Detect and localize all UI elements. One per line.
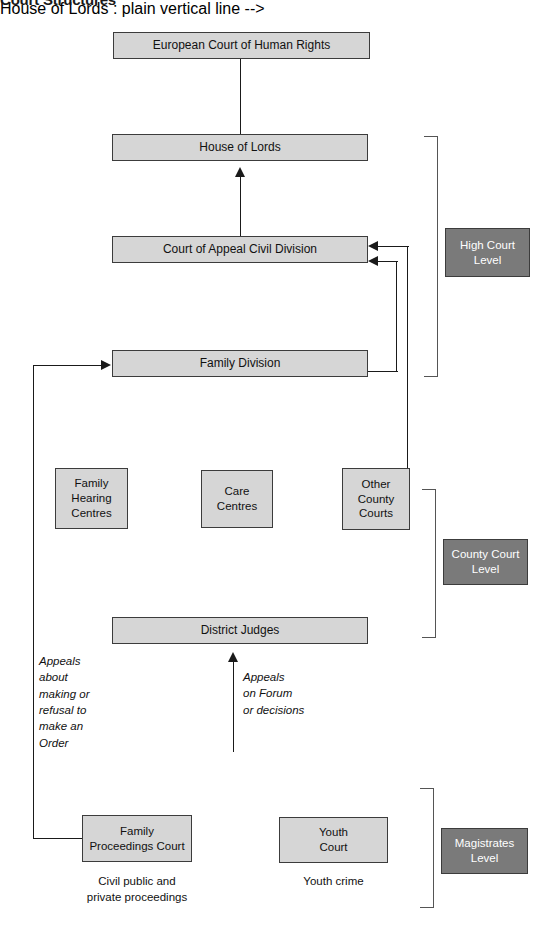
badge-county-court-level[interactable]: County Court Level xyxy=(443,539,528,585)
court-structures-diagram: Court Structures House of Lords : plain … xyxy=(0,0,558,939)
annotation-appeals-about-order: Appeals about making or refusal to make … xyxy=(39,653,134,751)
connector-county-courts-to-appeal xyxy=(378,246,409,247)
node-family-proceedings-court[interactable]: Family Proceedings Court xyxy=(82,815,192,862)
connector-fpc-left-stub xyxy=(33,838,83,839)
node-court-of-appeal-civil-division[interactable]: Court of Appeal Civil Division xyxy=(112,236,368,263)
arrowhead-fpc-to-family-division xyxy=(101,360,111,370)
connector-fpc-to-family-division xyxy=(33,365,102,366)
arrowhead-appeals-forum xyxy=(228,652,238,662)
caption-family-proceedings-court: Civil public and private proceedings xyxy=(62,874,212,905)
badge-high-court-level[interactable]: High Court Level xyxy=(445,228,530,277)
node-european-court-of-human-rights[interactable]: European Court of Human Rights xyxy=(113,32,370,59)
arrowhead-county-courts-to-appeal xyxy=(368,241,378,251)
connector-fpc-riser xyxy=(33,365,34,839)
caption-youth-court: Youth crime xyxy=(279,874,388,890)
bracket-magistrates-level xyxy=(420,788,434,908)
arrowhead-family-division-to-appeal xyxy=(368,256,378,266)
connector-appeals-forum-line xyxy=(233,662,234,752)
bracket-high-court-level xyxy=(424,136,438,377)
bracket-county-court-level xyxy=(422,489,436,638)
connector-appeal-to-lords-line xyxy=(240,176,241,238)
connector-echr-to-house-of-lords xyxy=(240,58,241,135)
node-youth-court[interactable]: Youth Court xyxy=(279,817,388,863)
arrowhead-appeal-to-lords xyxy=(235,167,245,177)
node-care-centres[interactable]: Care Centres xyxy=(201,470,273,528)
connector-family-division-right-stub xyxy=(368,371,398,372)
node-family-hearing-centres[interactable]: Family Hearing Centres xyxy=(55,468,128,529)
connector-family-division-riser xyxy=(396,261,397,372)
badge-magistrates-level[interactable]: Magistrates Level xyxy=(441,828,528,874)
connector-family-division-to-appeal xyxy=(378,261,398,262)
node-family-division[interactable]: Family Division xyxy=(112,350,368,377)
page-title: Court Structures xyxy=(0,0,116,8)
node-house-of-lords[interactable]: House of Lords xyxy=(112,134,368,161)
connector-county-courts-riser xyxy=(407,246,408,468)
annotation-appeals-on-forum: Appeals on Forum or decisions xyxy=(243,669,363,718)
node-district-judges[interactable]: District Judges xyxy=(112,617,368,644)
node-other-county-courts[interactable]: Other County Courts xyxy=(342,468,410,530)
